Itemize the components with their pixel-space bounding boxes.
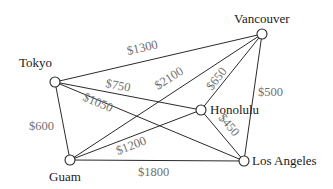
node-tokyo — [50, 77, 60, 87]
label-vancouver: Vancouver — [234, 11, 290, 26]
fare-guam-vancouver: $2100 — [152, 64, 186, 93]
node-guam — [65, 155, 75, 165]
fare-tokyo-los-angeles: $1050 — [81, 90, 115, 115]
edge-tokyo-vancouver — [55, 34, 262, 82]
label-guam: Guam — [49, 169, 81, 184]
label-los-angeles: Los Angeles — [252, 153, 317, 168]
fare-tokyo-vancouver: $1300 — [126, 37, 160, 58]
edge-tokyo-guam — [55, 82, 70, 160]
fare-vancouver-los-angeles: $500 — [258, 85, 283, 99]
label-tokyo: Tokyo — [19, 55, 52, 70]
label-honolulu: Honolulu — [210, 102, 260, 117]
edge-guam-los-angeles — [70, 160, 244, 161]
fare-guam-los-angeles: $1800 — [138, 165, 169, 179]
fare-guam-honolulu: $1200 — [114, 134, 148, 158]
node-los-angeles — [239, 156, 249, 166]
fare-tokyo-guam: $600 — [29, 119, 54, 133]
node-vancouver — [257, 29, 267, 39]
airfare-graph: $1300 $750 $1050 $600 $2100 $1200 $1800 … — [0, 0, 333, 189]
edge-tokyo-los-angeles — [55, 82, 244, 161]
node-honolulu — [196, 105, 206, 115]
